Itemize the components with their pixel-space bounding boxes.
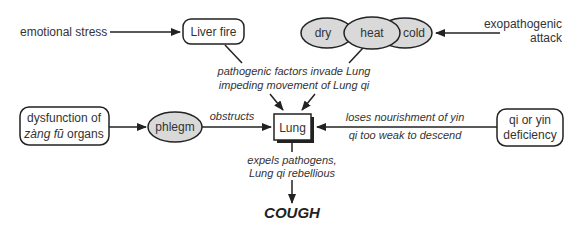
expels-label-1: expels pathogens, [247,154,336,166]
exopathogen-ellipses: dry heat cold [301,17,432,49]
phlegm-label: phlegm [155,120,194,134]
heat-connector [349,48,363,63]
obstructs-label: obstructs [210,110,255,122]
invade-label-1: pathogenic factors invade Lung [217,65,372,77]
invade-label-2: impeding movement of Lung qi [219,79,370,91]
dysfunction-label-1: dysfunction of [27,111,102,125]
expels-label-2: Lung qi rebellious [249,167,336,179]
exopathogenic-label-1: exopathogenic [484,17,562,31]
liver-fire-label: Liver fire [190,25,236,39]
deficiency-label-2: deficiency [503,128,556,142]
exopathogenic-label-2: attack [530,31,563,45]
cough-pathogenesis-diagram: emotional stress Liver fire dry heat col… [0,0,585,237]
dysfunction-node: dysfunction of zàng fŭ organs [20,107,109,145]
invade-arrow-right [302,94,315,110]
qi-too-weak-label: qi too weak to descend [349,129,462,141]
cough-label: COUGH [264,204,321,221]
dysfunction-label-2: zàng fŭ organs [23,127,103,141]
invade-arrow-left [270,94,283,110]
emotional-stress-label: emotional stress [20,25,107,39]
deficiency-label-1: qi or yin [509,113,551,127]
heat-label: heat [360,26,384,40]
liver-fire-node: Liver fire [183,19,244,44]
lung-node: Lung [274,114,314,143]
phlegm-node: phlegm [148,112,202,142]
dry-label: dry [315,26,332,40]
loses-nourishment-label: loses nourishment of yin [346,111,465,123]
liver-fire-connector [225,45,242,63]
cold-label: cold [403,26,425,40]
deficiency-node: qi or yin deficiency [497,109,563,146]
lung-label: Lung [279,121,306,135]
